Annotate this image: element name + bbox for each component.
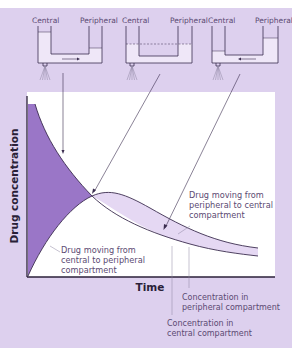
tank-1-central-label: Central	[32, 16, 59, 25]
svg-text:central compartment: central compartment	[167, 329, 252, 338]
tank-2-peripheral-label: Peripheral	[170, 16, 208, 25]
annotation-conc-central: Concentration in central compartment	[167, 319, 252, 338]
svg-text:compartment: compartment	[61, 265, 117, 275]
svg-text:central to peripheral: central to peripheral	[61, 255, 145, 265]
tank-3: Central Peripheral	[208, 16, 292, 80]
tank-2-central-label: Central	[122, 16, 149, 25]
svg-text:Drug moving from: Drug moving from	[189, 190, 264, 200]
svg-text:Concentration in: Concentration in	[182, 293, 248, 302]
two-compartment-diagram: Central Peripheral Central Peripheral	[0, 8, 292, 348]
svg-text:Concentration in: Concentration in	[167, 319, 233, 328]
drip-icon	[40, 66, 50, 80]
drip-icon	[127, 66, 137, 80]
y-axis-label: Drug concentration	[8, 129, 20, 244]
svg-text:Drug moving from: Drug moving from	[61, 245, 136, 255]
pharmacokinetics-figure: Central Peripheral Central Peripheral	[0, 8, 292, 348]
tank-1: Central Peripheral	[32, 16, 118, 80]
tank-3-central-label: Central	[208, 16, 235, 25]
tank-1-peripheral-label: Peripheral	[80, 16, 118, 25]
x-axis-label: Time	[136, 281, 165, 293]
annotation-conc-peripheral: Concentration in peripheral compartment	[182, 293, 280, 312]
drip-icon	[213, 66, 223, 80]
svg-text:peripheral compartment: peripheral compartment	[182, 303, 280, 312]
svg-text:peripheral to central: peripheral to central	[189, 200, 273, 210]
svg-text:compartment: compartment	[189, 210, 245, 220]
tank-3-peripheral-label: Peripheral	[255, 16, 292, 25]
tank-2: Central Peripheral	[122, 16, 208, 80]
